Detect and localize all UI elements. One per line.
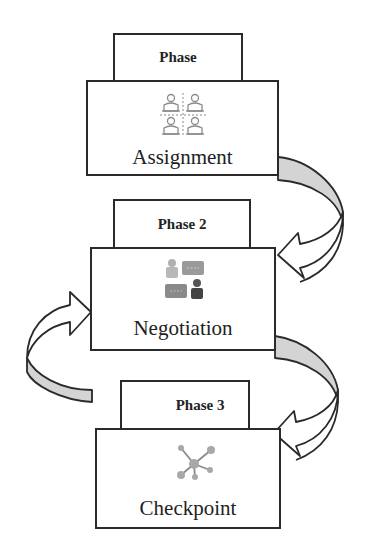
phase-1-title: Assignment xyxy=(132,147,232,168)
arrow-checkpoint-to-negotiation xyxy=(27,292,92,402)
negotiation-chat-icon xyxy=(163,258,207,302)
phase-2-title: Negotiation xyxy=(133,318,232,339)
arrow-assignment-to-negotiation xyxy=(278,157,343,282)
arrow-negotiation-to-checkpoint xyxy=(274,336,338,460)
phase-1-tab-label: Phase xyxy=(159,49,197,66)
people-grid-icon xyxy=(160,93,206,137)
network-hub-icon xyxy=(175,440,217,482)
phase-3-title: Checkpoint xyxy=(140,498,237,519)
phase-1-tab: Phase xyxy=(113,33,243,82)
phase-2-tab: Phase 2 xyxy=(113,199,251,249)
phase-3-tab: Phase 3 xyxy=(120,380,250,430)
phase-2-tab-label: Phase 2 xyxy=(158,216,207,233)
phase-3-tab-label: Phase 3 xyxy=(176,397,225,414)
